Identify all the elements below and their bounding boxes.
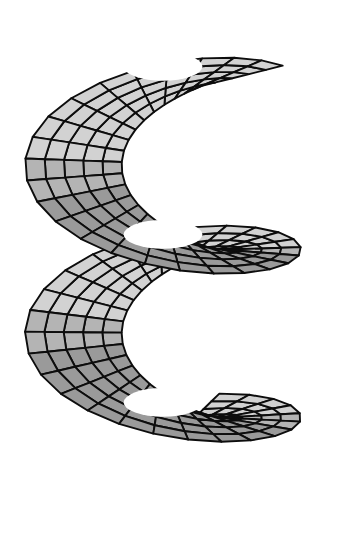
- mesh-facet: [25, 310, 49, 332]
- center-hole: [124, 388, 203, 417]
- mesh-facet: [64, 332, 85, 350]
- mesh-facet: [25, 159, 46, 181]
- mesh-facet: [25, 332, 47, 354]
- mesh-facet: [45, 159, 65, 179]
- center-hole: [124, 52, 203, 81]
- mesh-facet: [102, 319, 123, 333]
- center-hole: [124, 220, 203, 249]
- mesh-facet: [83, 161, 103, 177]
- helicoid-surface: Helicoid (spiral ramp) surface Shaded qu…: [0, 0, 341, 560]
- figure-container: Helicoid (spiral ramp) surface Shaded qu…: [0, 0, 341, 560]
- mesh-facet: [64, 160, 84, 178]
